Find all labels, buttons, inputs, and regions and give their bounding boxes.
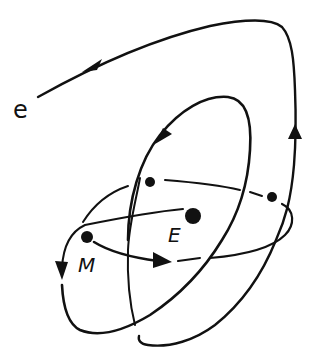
moon-label: M — [78, 253, 95, 277]
orbit-diagram: e E M — [0, 0, 316, 361]
electron-label: e — [13, 96, 28, 124]
earth-label: E — [168, 223, 181, 247]
arrow-moon-orbit-icon — [153, 252, 172, 268]
arrow-outer-right-icon — [288, 124, 302, 139]
orbit-point-left-dot — [145, 177, 155, 187]
earth-dot — [185, 208, 201, 224]
moon-dot — [81, 231, 93, 243]
arrow-left-loop-icon — [55, 261, 68, 280]
inner-orbit — [62, 97, 250, 333]
orbit-point-right-dot — [267, 192, 277, 202]
outer-trajectory — [38, 20, 296, 345]
arrow-inner-orbit-icon — [155, 128, 172, 144]
arrow-outer-top-icon — [82, 59, 102, 72]
